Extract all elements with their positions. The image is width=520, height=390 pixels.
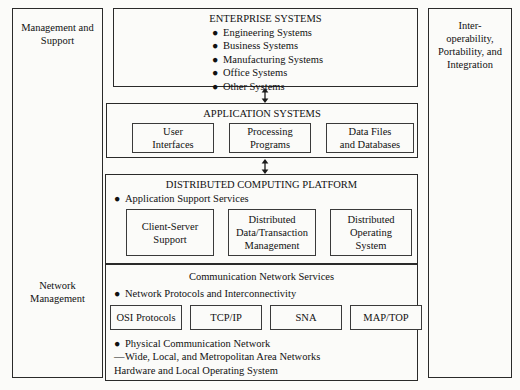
protocol-box-tcpip: TCP/IP — [190, 305, 262, 330]
platform-services-label: Application Support Services — [125, 193, 249, 204]
platform-subbox-distributed-os: Distributed Operating System — [330, 209, 412, 256]
list-item: ●Business Systems — [212, 39, 323, 52]
platform-subbox-data-transaction: Distributed Data/Transaction Management — [228, 209, 316, 256]
enterprise-systems-title: ENTERPRISE SYSTEMS — [114, 12, 417, 25]
list-item-label: Manufacturing Systems — [223, 54, 323, 65]
network-services-title: Communication Network Services — [106, 270, 417, 283]
list-item-label: Engineering Systems — [223, 27, 312, 38]
list-item: ●Manufacturing Systems — [212, 53, 323, 66]
dash-icon: — — [114, 350, 125, 363]
bullet-icon: ● — [212, 66, 223, 79]
network-protocols-line: ●Network Protocols and Interconnectivity — [114, 287, 296, 300]
application-systems-box: APPLICATION SYSTEMS User Interfaces Proc… — [106, 103, 418, 158]
list-item: ●Office Systems — [212, 66, 323, 79]
list-item-label: Office Systems — [223, 67, 287, 78]
list-item: —Wide, Local, and Metropolitan Area Netw… — [114, 350, 320, 363]
enterprise-systems-box: ENTERPRISE SYSTEMS ●Engineering Systems … — [113, 8, 418, 87]
architecture-diagram: Management and Support Network Managemen… — [0, 0, 520, 390]
platform-subbox-client-server: Client-Server Support — [126, 209, 214, 256]
list-item: ●Application Support Services — [114, 192, 249, 205]
enterprise-systems-list: ●Engineering Systems ●Business Systems ●… — [212, 26, 323, 93]
bullet-icon: ● — [212, 26, 223, 39]
application-platform-arrow — [259, 159, 271, 174]
left-sidebar-top-label: Management and Support — [13, 21, 102, 47]
physical-network-line: ●Physical Communication Network —Wide, L… — [114, 337, 320, 364]
communication-network-services-box: Communication Network Services ●Network … — [105, 264, 418, 381]
distributed-computing-platform-box: DISTRIBUTED COMPUTING PLATFORM ●Applicat… — [105, 174, 418, 264]
platform-services-line: ●Application Support Services — [114, 192, 249, 205]
list-item: ●Physical Communication Network — [114, 337, 320, 350]
bullet-icon: ● — [114, 337, 125, 350]
right-sidebar: Inter- operability, Portability, and Int… — [428, 8, 512, 378]
physical-network-detail: Wide, Local, and Metropolitan Area Netwo… — [125, 351, 320, 362]
list-item-label: Business Systems — [223, 40, 298, 51]
bullet-icon: ● — [114, 287, 125, 300]
bullet-icon: ● — [114, 192, 125, 205]
bullet-icon: ● — [212, 39, 223, 52]
enterprise-application-arrow — [259, 88, 271, 103]
application-systems-title: APPLICATION SYSTEMS — [107, 107, 417, 120]
physical-network-label: Physical Communication Network — [125, 338, 270, 349]
left-sidebar: Management and Support Network Managemen… — [12, 8, 103, 378]
list-item: ●Network Protocols and Interconnectivity — [114, 287, 296, 300]
protocol-box-sna: SNA — [270, 305, 342, 330]
application-subbox-user-interfaces: User Interfaces — [132, 123, 214, 153]
left-sidebar-middle-label: Network Management — [13, 279, 102, 305]
bullet-icon: ● — [212, 80, 223, 93]
list-item: ●Engineering Systems — [212, 26, 323, 39]
platform-title: DISTRIBUTED COMPUTING PLATFORM — [106, 178, 417, 191]
application-subbox-processing-programs: Processing Programs — [229, 123, 311, 153]
bullet-icon: ● — [212, 53, 223, 66]
application-subbox-data-files: Data Files and Databases — [326, 123, 414, 153]
network-protocols-label: Network Protocols and Interconnectivity — [125, 288, 296, 299]
protocol-box-maptop: MAP/TOP — [350, 305, 422, 330]
hardware-os-label: Hardware and Local Operating System — [114, 364, 278, 377]
list-item-label: Other Systems — [223, 81, 285, 92]
right-sidebar-label: Inter- operability, Portability, and Int… — [429, 19, 511, 71]
protocol-box-osi: OSI Protocols — [110, 305, 182, 330]
